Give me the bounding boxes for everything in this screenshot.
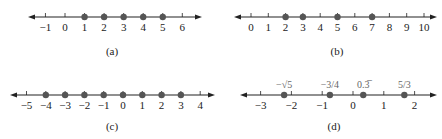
tick-label: 4	[317, 21, 323, 33]
data-point	[369, 14, 375, 20]
arrow-right-icon	[430, 93, 437, 98]
data-point	[401, 92, 407, 98]
arrow-right-icon	[208, 93, 215, 98]
tick-label: 0	[350, 99, 356, 111]
tick-label: 3	[178, 99, 184, 111]
number-lines-figure: −10123456(a)012345678910(b)−5−4−3−2−1012…	[0, 0, 442, 139]
tick-label: 8	[387, 21, 393, 33]
tick-label: 1	[140, 99, 146, 111]
tick-label: −3	[255, 99, 267, 111]
tick-label: 6	[180, 21, 186, 33]
number-line-c: −5−4−3−2−101234(c)	[10, 91, 215, 133]
data-point	[282, 14, 288, 20]
figure-caption: (c)	[106, 120, 119, 133]
data-point	[158, 92, 164, 98]
arrow-right-icon	[195, 15, 202, 20]
tick-label: 10	[419, 21, 431, 33]
arrow-left-icon	[28, 15, 35, 20]
tick-label: 2	[159, 99, 165, 111]
figure-caption: (d)	[328, 120, 341, 133]
tick-label: 6	[352, 21, 358, 33]
data-point	[120, 92, 126, 98]
tick-label: 0	[120, 99, 126, 111]
figure-caption: (a)	[106, 45, 119, 58]
tick-label: 2	[283, 21, 289, 33]
tick-label: 3	[300, 21, 306, 33]
data-point	[120, 14, 126, 20]
point-label: 0.3̅	[357, 79, 373, 90]
point-label: 5/3	[398, 79, 411, 90]
tick-label: 1	[82, 21, 88, 33]
data-point	[178, 92, 184, 98]
data-point	[300, 14, 306, 20]
tick-label: 2	[101, 21, 107, 33]
data-point	[281, 92, 287, 98]
tick-label: −2	[286, 99, 298, 111]
data-point	[43, 92, 49, 98]
data-point	[360, 92, 366, 98]
tick-label: 4	[197, 99, 203, 111]
tick-label: −5	[21, 99, 33, 111]
data-point	[101, 92, 107, 98]
tick-label: 0	[62, 21, 68, 33]
arrow-left-icon	[234, 15, 241, 20]
data-point	[81, 92, 87, 98]
tick-label: −2	[79, 99, 91, 111]
tick-label: 3	[121, 21, 127, 33]
tick-label: 5	[335, 21, 341, 33]
tick-label: 0	[248, 21, 254, 33]
tick-label: 9	[404, 21, 410, 33]
data-point	[334, 14, 340, 20]
number-line-d: −3−2−1012−√5−3/40.3̅5/3(d)	[240, 79, 437, 133]
tick-label: 5	[160, 21, 166, 33]
number-line-a: −10123456(a)	[28, 13, 202, 58]
tick-label: 1	[266, 21, 272, 33]
tick-label: −3	[59, 99, 71, 111]
point-label: −3/4	[321, 79, 339, 90]
data-point	[160, 14, 166, 20]
data-point	[81, 14, 87, 20]
number-line-b: 012345678910(b)	[234, 13, 437, 58]
arrow-left-icon	[10, 93, 17, 98]
data-point	[62, 92, 68, 98]
tick-label: −1	[316, 99, 328, 111]
figure-caption: (b)	[331, 45, 344, 58]
tick-label: −1	[40, 21, 52, 33]
data-point	[140, 14, 146, 20]
arrow-left-icon	[240, 93, 247, 98]
tick-label: 1	[381, 99, 387, 111]
tick-label: 7	[369, 21, 375, 33]
tick-label: −1	[98, 99, 110, 111]
data-point	[139, 92, 145, 98]
tick-label: 2	[412, 99, 418, 111]
data-point	[101, 14, 107, 20]
point-label: −√5	[276, 79, 292, 90]
arrow-right-icon	[430, 15, 437, 20]
tick-label: −4	[40, 99, 52, 111]
data-point	[327, 92, 333, 98]
tick-label: 4	[140, 21, 146, 33]
